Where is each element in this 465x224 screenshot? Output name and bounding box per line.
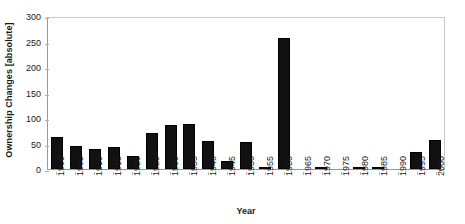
y-axis-tick-mark bbox=[45, 69, 49, 70]
bar-slot bbox=[369, 18, 388, 169]
plot-area bbox=[47, 17, 445, 170]
bar-slot bbox=[86, 18, 105, 169]
x-tick-slot: 1910 bbox=[85, 172, 104, 206]
bar-slot bbox=[199, 18, 218, 169]
bar-chart-figure: Ownership Changes [absolute] 05010015020… bbox=[0, 0, 465, 224]
bar-slot bbox=[48, 18, 67, 169]
y-axis-title: Ownership Changes [absolute] bbox=[0, 0, 18, 180]
x-tick-slot: 1960 bbox=[274, 172, 293, 206]
bar-slot bbox=[123, 18, 142, 169]
bar-slot bbox=[350, 18, 369, 169]
y-axis-tick-label: 100 bbox=[26, 114, 41, 124]
x-tick-slot: 1930 bbox=[161, 172, 180, 206]
x-tick-slot: 1925 bbox=[142, 172, 161, 206]
bar-slot bbox=[67, 18, 86, 169]
x-tick-slot: 1920 bbox=[123, 172, 142, 206]
x-tick-slot: 1985 bbox=[369, 172, 388, 206]
bar bbox=[278, 38, 290, 169]
x-axis-title: Year bbox=[47, 206, 445, 216]
y-axis-tick-label: 0 bbox=[36, 165, 41, 175]
y-axis-tick-labels: 050100150200250300 bbox=[18, 0, 45, 180]
bar-slot bbox=[237, 18, 256, 169]
y-axis-tick-mark bbox=[45, 18, 49, 19]
x-tick-slot: 1935 bbox=[180, 172, 199, 206]
bar-slot bbox=[274, 18, 293, 169]
y-axis-tick-label: 200 bbox=[26, 63, 41, 73]
bar-slot bbox=[387, 18, 406, 169]
x-tick-slot: 1975 bbox=[331, 172, 350, 206]
x-tick-slot: 1905 bbox=[66, 172, 85, 206]
x-tick-slot: 1965 bbox=[293, 172, 312, 206]
x-tick-slot: 2000 bbox=[426, 172, 445, 206]
x-tick-slot: 1955 bbox=[255, 172, 274, 206]
bar-slot bbox=[425, 18, 444, 169]
y-axis-tick-label: 300 bbox=[26, 12, 41, 22]
x-tick-slot: 1900 bbox=[47, 172, 66, 206]
bar-slot bbox=[312, 18, 331, 169]
x-tick-slot: 1915 bbox=[104, 172, 123, 206]
bar-slot bbox=[255, 18, 274, 169]
y-axis-tick-label: 50 bbox=[31, 140, 41, 150]
y-axis-tick-label: 150 bbox=[26, 89, 41, 99]
x-tick-slot: 1995 bbox=[407, 172, 426, 206]
x-axis-tick-labels: 1900190519101915192019251930193519401945… bbox=[47, 172, 445, 206]
x-tick-slot: 1945 bbox=[218, 172, 237, 206]
x-tick-slot: 1980 bbox=[350, 172, 369, 206]
y-axis-tick-mark bbox=[45, 44, 49, 45]
bar-series bbox=[48, 18, 444, 169]
x-tick-slot: 1950 bbox=[237, 172, 256, 206]
x-axis-tick-label: 2000 bbox=[436, 156, 446, 176]
y-axis-tick-mark bbox=[45, 146, 49, 147]
bar-slot bbox=[142, 18, 161, 169]
bar-slot bbox=[331, 18, 350, 169]
bar-slot bbox=[105, 18, 124, 169]
bar-slot bbox=[218, 18, 237, 169]
y-axis-tick-mark bbox=[45, 120, 49, 121]
x-tick-slot: 1970 bbox=[312, 172, 331, 206]
x-tick-slot: 1940 bbox=[199, 172, 218, 206]
x-tick-slot: 1990 bbox=[388, 172, 407, 206]
bar-slot bbox=[161, 18, 180, 169]
bar-slot bbox=[180, 18, 199, 169]
y-axis-tick-label: 250 bbox=[26, 38, 41, 48]
y-axis-title-text: Ownership Changes [absolute] bbox=[4, 22, 14, 157]
y-axis-tick-mark bbox=[45, 95, 49, 96]
bar-slot bbox=[406, 18, 425, 169]
bar-slot bbox=[293, 18, 312, 169]
